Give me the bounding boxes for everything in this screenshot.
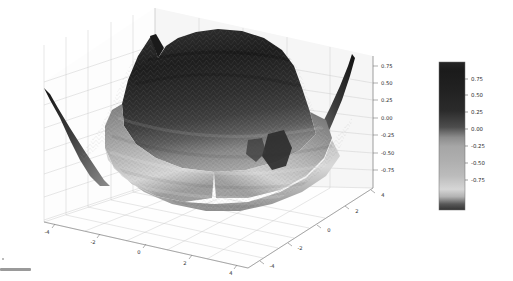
z-tick-label: -0.25 <box>381 132 394 138</box>
x-tick-label: 4 <box>229 270 233 276</box>
z-tick-label: -0.50 <box>381 150 394 156</box>
z-tick-label: 0.25 <box>381 97 393 103</box>
figure-canvas: -4 -2 0 2 4 -4 -2 0 2 4 <box>0 0 513 281</box>
x-tick-label: 0 <box>137 249 140 255</box>
scrollbar-handle[interactable] <box>0 268 31 271</box>
z-axis: 0.75 0.50 0.25 0.00 -0.25 -0.50 -0.75 <box>373 63 394 173</box>
colorbar-tick-label: 0.75 <box>471 76 483 82</box>
z-tick-label: 0.75 <box>381 63 393 69</box>
x-tick-label: -4 <box>44 229 50 235</box>
colorbar-tick-label: 0.00 <box>471 126 484 132</box>
y-tick-label: -4 <box>269 263 275 269</box>
colorbar-ticks <box>465 79 468 180</box>
z-tick-label: 0.00 <box>381 115 393 121</box>
colorbar-tick-label: -0.25 <box>471 143 485 149</box>
colorbar-tick-label: -0.50 <box>471 160 486 166</box>
x-tick-label: -2 <box>90 239 95 245</box>
colorbar-gradient[interactable] <box>439 62 465 210</box>
colorbar-tick-label: 0.25 <box>471 109 483 115</box>
surface-plot-svg[interactable]: -4 -2 0 2 4 -4 -2 0 2 4 <box>0 0 513 281</box>
x-tick-label: 2 <box>183 260 186 266</box>
colorbar-tick-label: -0.75 <box>471 177 485 183</box>
y-tick-label: 2 <box>355 208 358 214</box>
y-tick-label: 4 <box>381 192 385 198</box>
colorbar-tick-label: 0.50 <box>471 92 484 98</box>
z-tick-label: 0.50 <box>381 80 393 86</box>
colorbar[interactable]: 0.75 0.50 0.25 0.00 -0.25 -0.50 -0.75 <box>439 62 486 210</box>
y-tick-label: -2 <box>297 245 302 251</box>
chrome-dot-icon <box>2 258 4 260</box>
y-tick-label: 0 <box>327 227 330 233</box>
z-tick-label: -0.75 <box>381 167 394 173</box>
